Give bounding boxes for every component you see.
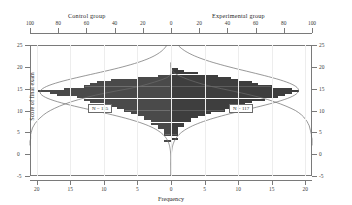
top-tick-label: 60: [253, 20, 258, 26]
bottom-tick-label: 20: [303, 186, 308, 192]
bottom-tick-label: 15: [68, 186, 73, 192]
grid-line: [104, 45, 105, 176]
y-tick: [312, 176, 317, 177]
y-tick-label: -5: [319, 173, 324, 179]
bottom-tick: [305, 180, 306, 185]
top-tick-label: 20: [196, 20, 201, 26]
top-tick: [227, 28, 228, 33]
y-tick: [312, 67, 317, 68]
y-tick-label: 5: [319, 129, 322, 135]
grid-line: [238, 45, 239, 176]
y-tick-label: 10: [17, 108, 22, 114]
bottom-tick: [205, 180, 206, 185]
y-tick: [25, 176, 30, 177]
top-tick: [199, 28, 200, 33]
top-tick: [284, 28, 285, 33]
histogram-bar: [171, 138, 178, 140]
bottom-tick: [37, 180, 38, 185]
y-tick: [312, 45, 317, 46]
y-tick-label: 5: [17, 129, 20, 135]
bottom-tick-label: 5: [203, 186, 206, 192]
top-tick: [86, 28, 87, 33]
top-tick-label: 60: [84, 20, 89, 26]
grid-line: [272, 45, 273, 176]
y-tick: [312, 154, 317, 155]
top-tick-label: 80: [281, 20, 286, 26]
histogram-bar: [164, 133, 171, 135]
experimental-group-title: Experimental group: [212, 12, 265, 19]
bottom-tick: [171, 180, 172, 185]
y-tick-label: 0: [17, 151, 20, 157]
bottom-tick: [238, 180, 239, 185]
top-tick: [58, 28, 59, 33]
y-tick: [312, 111, 317, 112]
grid-line: [305, 45, 306, 176]
top-tick: [256, 28, 257, 33]
y-tick-label: 25: [319, 42, 324, 48]
top-tick-label: 0: [170, 20, 173, 26]
histogram-bar: [171, 133, 178, 135]
grid-line: [70, 45, 71, 176]
top-tick: [312, 28, 313, 33]
top-axis-line: [30, 33, 312, 34]
y-tick-label: 15: [17, 86, 22, 92]
grid-line: [137, 45, 138, 176]
y-tick-label: 20: [17, 64, 22, 70]
bottom-tick-label: 20: [34, 186, 39, 192]
grid-line: [205, 45, 206, 176]
top-tick-label: 40: [225, 20, 230, 26]
bottom-tick-label: 5: [136, 186, 139, 192]
top-tick-label: 100: [26, 20, 34, 26]
histogram-bar: [164, 140, 171, 142]
top-tick: [143, 28, 144, 33]
bottom-tick: [137, 180, 138, 185]
bottom-tick: [272, 180, 273, 185]
top-tick: [30, 28, 31, 33]
y-tick-label: 20: [319, 64, 324, 70]
experimental-n-annotation: N = 117: [229, 104, 253, 113]
bottom-tick-label: 15: [269, 186, 274, 192]
y-tick-label: 15: [319, 86, 324, 92]
top-tick-label: 20: [140, 20, 145, 26]
grid-line: [171, 45, 172, 176]
bottom-tick: [70, 180, 71, 185]
top-tick-label: 80: [55, 20, 60, 26]
y-tick-label: -5: [17, 173, 22, 179]
control-n-annotation: N = 115: [88, 104, 112, 113]
chart-root: Control group Experimental group 1008060…: [0, 0, 352, 205]
top-tick-label: 100: [308, 20, 316, 26]
y-tick-label: 25: [17, 42, 22, 48]
grid-line: [37, 45, 38, 176]
control-group-title: Control group: [68, 12, 106, 19]
y-axis-label: Score of final exam: [28, 41, 35, 153]
bottom-tick-label: 10: [235, 186, 240, 192]
bottom-tick: [104, 180, 105, 185]
top-tick: [171, 28, 172, 33]
y-tick: [312, 89, 317, 90]
y-tick: [25, 154, 30, 155]
bottom-tick-label: 0: [170, 186, 173, 192]
y-tick-label: 0: [319, 151, 322, 157]
x-axis-label: Frequency: [30, 195, 312, 202]
bottom-tick-label: 10: [101, 186, 106, 192]
y-tick-label: 10: [319, 108, 324, 114]
top-tick: [115, 28, 116, 33]
y-tick: [312, 132, 317, 133]
top-tick-label: 40: [112, 20, 117, 26]
